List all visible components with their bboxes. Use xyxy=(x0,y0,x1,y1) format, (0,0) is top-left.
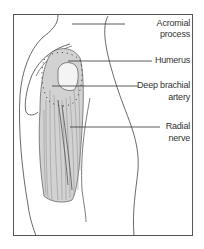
label-radial-nerve-line1: Radial xyxy=(150,121,190,132)
label-humerus: Humerus xyxy=(150,55,190,66)
label-acromial-process: Acromial process xyxy=(128,18,190,40)
label-deep-brachial-line1: Deep brachial xyxy=(136,80,190,91)
label-deep-brachial-line2: artery xyxy=(136,92,190,103)
label-radial-nerve-line2: nerve xyxy=(150,133,190,144)
chest-outline xyxy=(105,16,138,236)
